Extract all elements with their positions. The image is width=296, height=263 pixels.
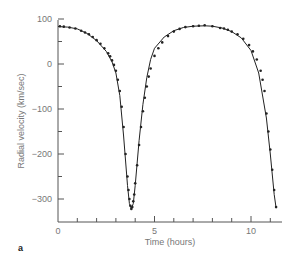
data-point [133, 193, 136, 196]
data-point [261, 78, 264, 81]
data-point [128, 198, 131, 201]
data-point [120, 105, 123, 108]
data-point [211, 25, 214, 28]
x-tick-label: 0 [55, 226, 60, 236]
data-point [132, 200, 135, 203]
data-point [103, 47, 106, 50]
data-point [111, 59, 114, 62]
data-point [219, 27, 222, 30]
data-point [265, 112, 268, 115]
data-point [192, 25, 195, 28]
data-point [198, 24, 201, 27]
data-point [144, 96, 147, 99]
data-point [273, 189, 276, 192]
data-point [117, 78, 120, 81]
data-point [269, 148, 272, 151]
y-tick-label: 0 [47, 59, 52, 69]
data-point [255, 58, 258, 61]
data-point [203, 24, 206, 27]
data-point [145, 85, 148, 88]
data-point [223, 27, 226, 30]
data-point [140, 126, 143, 129]
data-point [74, 27, 77, 30]
data-point [95, 39, 98, 42]
data-point [113, 64, 116, 67]
radial-velocity-chart: 1000−100−200−300 0510 Time (hours) Radia… [0, 0, 296, 263]
y-tick-label: −200 [32, 149, 52, 159]
data-point [122, 126, 125, 129]
x-tick-label: 10 [246, 226, 256, 236]
x-tick-label: 5 [152, 226, 157, 236]
data-point [242, 38, 245, 41]
data-point [147, 75, 150, 78]
y-tick-label: 100 [37, 14, 52, 24]
data-point [178, 28, 181, 31]
data-point [142, 110, 145, 113]
data-point [127, 189, 130, 192]
fit-curve [58, 26, 276, 209]
observation-markers [59, 24, 278, 210]
data-point [259, 69, 262, 72]
data-point [271, 168, 274, 171]
data-point [267, 130, 270, 133]
data-point [167, 35, 170, 38]
data-point [138, 144, 141, 147]
data-point [157, 47, 160, 50]
data-point [236, 33, 239, 36]
data-point [91, 36, 94, 39]
data-point [227, 29, 230, 32]
data-point [62, 25, 65, 28]
data-point [99, 42, 102, 45]
data-point [68, 26, 71, 29]
data-point [131, 206, 134, 209]
panel-label: a [18, 243, 24, 253]
data-point [80, 29, 83, 32]
data-point [161, 41, 164, 44]
x-axis-title: Time (hours) [145, 237, 196, 247]
data-point [84, 31, 87, 34]
data-point [109, 55, 112, 58]
data-point [88, 33, 91, 36]
data-point [173, 30, 176, 33]
y-tick-label: −100 [32, 104, 52, 114]
data-point [252, 50, 255, 53]
data-point [149, 67, 152, 70]
data-point [153, 55, 156, 58]
data-point [136, 164, 139, 167]
data-point [124, 153, 127, 156]
axes: 1000−100−200−300 0510 [32, 14, 282, 236]
data-point [184, 26, 187, 29]
data-point [230, 30, 233, 33]
y-ticks: 1000−100−200−300 [32, 14, 64, 204]
data-point [59, 25, 62, 28]
data-point [118, 90, 121, 93]
data-point [126, 175, 129, 178]
data-point [275, 206, 278, 209]
y-axis-title: Radial velocity (km/sec) [16, 73, 26, 168]
data-point [134, 182, 137, 185]
y-tick-label: −300 [32, 194, 52, 204]
data-point [263, 90, 266, 93]
data-point [248, 44, 251, 47]
data-point [107, 52, 110, 55]
x-ticks: 0510 [55, 216, 270, 236]
data-point [115, 69, 118, 72]
